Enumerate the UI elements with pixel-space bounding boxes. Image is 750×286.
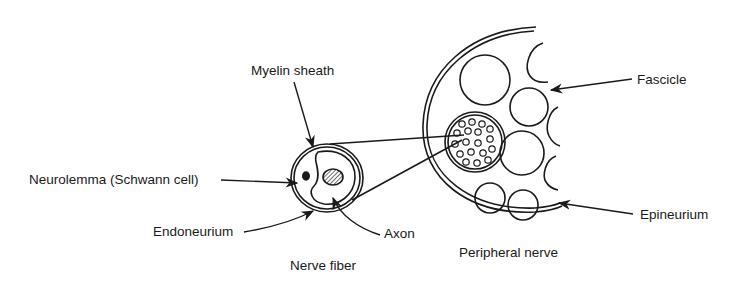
axon-core bbox=[323, 169, 343, 185]
arrow-axon bbox=[333, 198, 380, 235]
fascicle bbox=[500, 131, 544, 175]
arrow-endoneurium bbox=[244, 211, 313, 232]
label-epineurium: Epineurium bbox=[640, 208, 708, 222]
fascicle-partial bbox=[527, 43, 548, 82]
fascicle bbox=[508, 190, 538, 220]
peripheral-nerve-cross-section bbox=[423, 27, 562, 220]
nerve-diagram: Myelin sheath Neurolemma (Schwann cell) … bbox=[0, 0, 750, 286]
fascicle-partial bbox=[544, 156, 558, 190]
label-axon: Axon bbox=[384, 227, 415, 241]
fascicle bbox=[510, 88, 548, 126]
arrow-myelin-sheath bbox=[294, 82, 313, 147]
label-fascicle: Fascicle bbox=[637, 73, 687, 87]
caption-nerve-fiber: Nerve fiber bbox=[290, 259, 356, 273]
arrow-fascicle bbox=[551, 79, 632, 90]
fascicle-partial bbox=[547, 107, 560, 146]
label-endoneurium: Endoneurium bbox=[153, 225, 233, 239]
magnification-line-top bbox=[330, 135, 464, 144]
fascicle bbox=[460, 55, 510, 105]
arrow-neurolemma bbox=[221, 180, 297, 183]
arrow-epineurium bbox=[559, 203, 633, 214]
label-neurolemma: Neurolemma (Schwann cell) bbox=[29, 173, 199, 187]
caption-peripheral-nerve: Peripheral nerve bbox=[459, 246, 558, 260]
diagram-drawing bbox=[0, 0, 750, 286]
fascicle-detailed bbox=[445, 112, 505, 172]
nerve-fiber-cross-section bbox=[291, 144, 363, 212]
label-myelin-sheath: Myelin sheath bbox=[251, 64, 334, 78]
schwann-nucleus bbox=[303, 172, 309, 180]
